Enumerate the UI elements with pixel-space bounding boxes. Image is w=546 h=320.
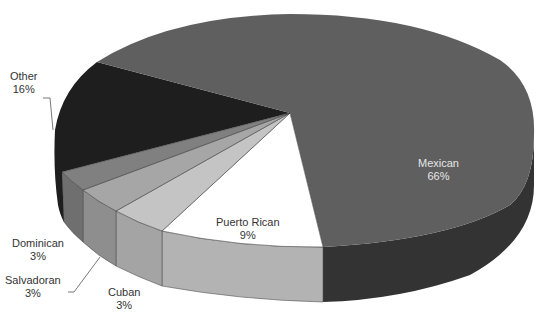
label-other-name: Other [10,70,38,83]
label-dominican-name: Dominican [12,237,64,250]
leader-line-salvadoran [68,257,100,292]
label-puerto-rican-name: Puerto Rican [216,216,280,229]
leader-line-other [43,98,53,130]
label-puerto-rican: Puerto Rican 9% [216,216,280,242]
label-salvadoran-pct: 3% [5,287,61,300]
label-salvadoran-name: Salvadoran [5,274,61,287]
label-salvadoran: Salvadoran 3% [5,274,61,300]
label-mexican-name: Mexican [418,157,459,170]
label-cuban: Cuban 3% [108,286,140,312]
label-other: Other 16% [10,70,38,96]
pie-chart-3d [0,0,546,320]
label-mexican: Mexican 66% [418,157,459,183]
label-dominican-pct: 3% [12,250,64,263]
label-dominican: Dominican 3% [12,237,64,263]
label-puerto-rican-pct: 9% [216,229,280,242]
label-cuban-name: Cuban [108,286,140,299]
label-mexican-pct: 66% [418,170,459,183]
label-cuban-pct: 3% [108,299,140,312]
label-other-pct: 16% [10,83,38,96]
